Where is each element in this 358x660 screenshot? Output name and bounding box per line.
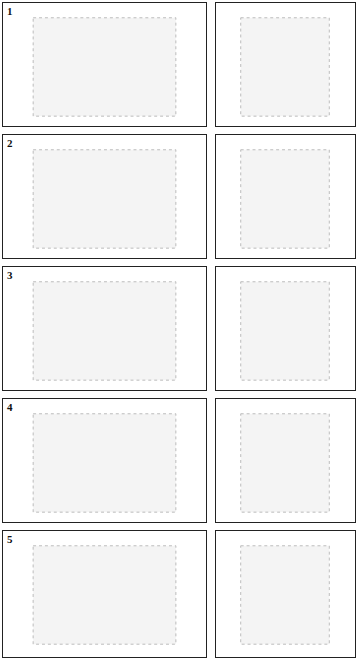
stage-grid: 1 2 3 4 5 xyxy=(0,0,358,660)
figure-placeholder xyxy=(216,135,355,258)
figure-placeholder xyxy=(3,267,206,390)
front-view-panel-3: 3 xyxy=(2,266,207,391)
figure-placeholder xyxy=(3,3,206,126)
front-view-panel-5: 5 xyxy=(2,530,207,658)
figure-placeholder xyxy=(216,399,355,522)
figure-placeholder xyxy=(216,531,355,657)
side-view-panel-3 xyxy=(215,266,356,391)
figure-placeholder xyxy=(3,399,206,522)
side-view-panel-5 xyxy=(215,530,356,658)
figure-placeholder xyxy=(216,3,355,126)
figure-placeholder xyxy=(216,267,355,390)
front-view-panel-1: 1 xyxy=(2,2,207,127)
figure-placeholder xyxy=(3,135,206,258)
front-view-panel-2: 2 xyxy=(2,134,207,259)
figure-placeholder xyxy=(3,531,206,657)
side-view-panel-1 xyxy=(215,2,356,127)
side-view-panel-4 xyxy=(215,398,356,523)
front-view-panel-4: 4 xyxy=(2,398,207,523)
side-view-panel-2 xyxy=(215,134,356,259)
